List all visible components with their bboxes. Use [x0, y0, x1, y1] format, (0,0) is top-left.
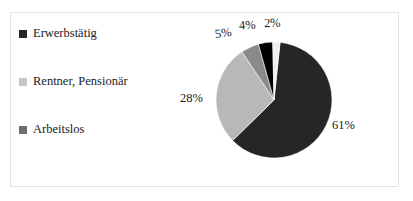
legend-label-arbeitslos: Arbeitslos	[33, 122, 84, 137]
legend-item-arbeitslos: Arbeitslos	[19, 122, 189, 170]
legend-item-erwerbstaetig: Erwerbstätig	[19, 26, 189, 74]
legend-swatch-rentner-pensionaer	[19, 78, 27, 86]
legend-swatch-erwerbstaetig	[19, 30, 27, 38]
legend-item-rentner-pensionaer: Rentner, Pensionär	[19, 74, 189, 122]
chart-page: Erwerbstätig Rentner, Pensionär Arbeitsl…	[0, 0, 413, 201]
chart-legend: Erwerbstätig Rentner, Pensionär Arbeitsl…	[19, 26, 189, 170]
legend-label-rentner-pensionaer: Rentner, Pensionär	[33, 74, 128, 89]
legend-swatch-arbeitslos	[19, 126, 27, 134]
legend-label-erwerbstaetig: Erwerbstätig	[33, 26, 97, 41]
